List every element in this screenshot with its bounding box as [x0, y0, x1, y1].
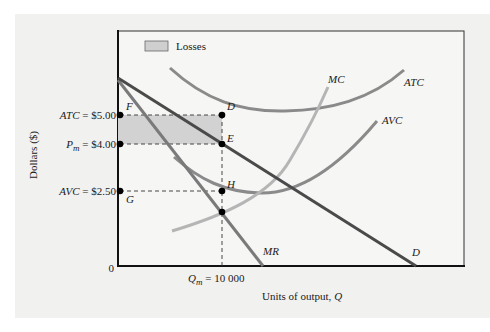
x-axis-title: Units of output, Q [262, 290, 342, 302]
label-mr: MR [262, 245, 279, 257]
label-atc: ATC [403, 76, 424, 88]
label-demand: D [411, 246, 420, 258]
label-h: H [226, 178, 236, 190]
point-mr-mc [219, 209, 226, 216]
legend-label-losses: Losses [176, 40, 206, 52]
losses-region [118, 115, 222, 144]
ytick-pm: Pm = $4.00 [65, 138, 116, 153]
point-avc-axis [117, 188, 124, 195]
ytick-atc: ATC = $5.00 [59, 109, 117, 121]
xtick-qm: Qm = 10 000 [188, 272, 245, 287]
point-d [219, 112, 226, 119]
label-g: G [126, 193, 134, 205]
legend-swatch-losses [145, 41, 168, 51]
label-f: F [125, 100, 133, 112]
point-atc-axis [117, 112, 124, 119]
origin-label: 0 [109, 262, 115, 274]
point-h [219, 188, 226, 195]
monopoly-loss-chart: Losses F D E H G MC ATC AVC MR D ATC = $… [0, 0, 490, 332]
label-avc: AVC [381, 114, 403, 126]
ytick-avc: AVC = $2.50 [58, 185, 116, 197]
y-axis-title: Dollars ($) [27, 131, 40, 179]
point-pm-axis [117, 141, 124, 148]
point-e [219, 141, 226, 148]
label-e: E [226, 132, 234, 144]
label-d-point: D [226, 100, 235, 112]
label-mc: MC [327, 73, 345, 85]
